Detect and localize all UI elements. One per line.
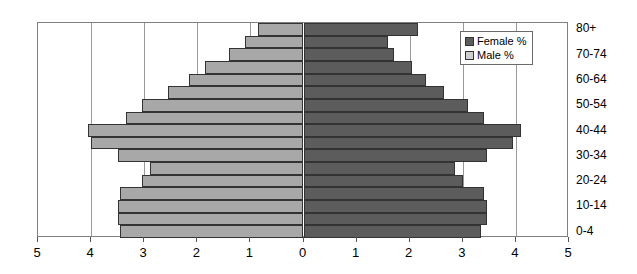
bar-male bbox=[258, 23, 303, 36]
bar-male bbox=[120, 225, 303, 238]
female-swatch-icon bbox=[465, 37, 474, 46]
x-axis-tick-mark bbox=[303, 237, 304, 242]
x-axis-tick-label: 4 bbox=[503, 246, 527, 260]
bar-female bbox=[304, 175, 463, 188]
bar-female bbox=[304, 74, 426, 87]
bar-row bbox=[38, 124, 567, 137]
bar-row bbox=[38, 175, 567, 188]
bar-male bbox=[118, 213, 304, 226]
y-axis-tick-label: 0-4 bbox=[576, 225, 593, 237]
x-axis-tick-mark bbox=[90, 237, 91, 242]
x-axis-tick-label: 2 bbox=[184, 246, 208, 260]
x-axis-tick-mark bbox=[515, 237, 516, 242]
bar-female bbox=[304, 149, 487, 162]
y-axis-tick-label: 70-74 bbox=[576, 48, 607, 60]
y-axis-tick-label: 20-24 bbox=[576, 174, 607, 186]
bar-row bbox=[38, 137, 567, 150]
y-axis-tick-label: 80+ bbox=[576, 22, 596, 34]
x-axis-tick-mark bbox=[462, 237, 463, 242]
bar-female bbox=[304, 99, 469, 112]
bar-male bbox=[118, 149, 304, 162]
y-axis-tick-label: 60-64 bbox=[576, 73, 607, 85]
x-axis-tick-label: 3 bbox=[450, 246, 474, 260]
bar-row bbox=[38, 99, 567, 112]
x-axis-tick-label: 5 bbox=[25, 246, 49, 260]
legend-label-female: Female % bbox=[477, 35, 527, 47]
x-axis-tick-label: 0 bbox=[291, 246, 315, 260]
x-axis-tick-mark bbox=[568, 237, 569, 242]
bar-male bbox=[168, 86, 303, 99]
bar-male bbox=[189, 74, 303, 87]
legend-item-female: Female % bbox=[465, 34, 527, 48]
x-axis-tick-mark bbox=[409, 237, 410, 242]
bar-row bbox=[38, 112, 567, 125]
x-axis-tick-mark bbox=[143, 237, 144, 242]
x-axis-tick-label: 2 bbox=[397, 246, 421, 260]
bar-male bbox=[126, 112, 304, 125]
y-axis-tick-label: 40-44 bbox=[576, 124, 607, 136]
bar-female bbox=[304, 86, 445, 99]
bar-row bbox=[38, 74, 567, 87]
bar-female bbox=[304, 36, 389, 49]
x-axis-tick-mark bbox=[356, 237, 357, 242]
bar-row bbox=[38, 162, 567, 175]
x-axis-tick-label: 4 bbox=[78, 246, 102, 260]
bar-male bbox=[118, 200, 304, 213]
x-axis-tick-mark bbox=[196, 237, 197, 242]
x-axis-tick-label: 1 bbox=[344, 246, 368, 260]
bar-row bbox=[38, 86, 567, 99]
y-axis-tick-label: 50-54 bbox=[576, 98, 607, 110]
bar-row bbox=[38, 187, 567, 200]
bar-row bbox=[38, 213, 567, 226]
bar-female bbox=[304, 187, 485, 200]
chart-legend: Female % Male % bbox=[460, 31, 533, 65]
bar-male bbox=[91, 137, 303, 150]
bar-female bbox=[304, 225, 482, 238]
bar-female bbox=[304, 124, 522, 137]
legend-label-male: Male % bbox=[477, 49, 514, 61]
y-axis-tick-label: 10-14 bbox=[576, 199, 607, 211]
bar-female bbox=[304, 61, 413, 74]
x-axis-tick-label: 3 bbox=[131, 246, 155, 260]
population-pyramid-chart: Female % Male % 0-410-1420-2430-3440-445… bbox=[0, 0, 637, 274]
bar-male bbox=[229, 48, 303, 61]
y-axis-tick-label: 30-34 bbox=[576, 149, 607, 161]
bar-female bbox=[304, 23, 418, 36]
bar-female bbox=[304, 213, 487, 226]
male-swatch-icon bbox=[465, 51, 474, 60]
bar-male bbox=[142, 99, 304, 112]
x-axis-tick-mark bbox=[37, 237, 38, 242]
x-axis-tick-mark bbox=[249, 237, 250, 242]
bar-male bbox=[88, 124, 303, 137]
bar-male bbox=[150, 162, 304, 175]
bar-male bbox=[142, 175, 304, 188]
x-axis-tick-label: 1 bbox=[237, 246, 261, 260]
bar-female bbox=[304, 48, 394, 61]
bar-female bbox=[304, 137, 514, 150]
bar-female bbox=[304, 112, 485, 125]
bar-female bbox=[304, 162, 455, 175]
bar-male bbox=[120, 187, 303, 200]
legend-item-male: Male % bbox=[465, 48, 527, 62]
bar-female bbox=[304, 200, 487, 213]
bar-male bbox=[245, 36, 303, 49]
bar-row bbox=[38, 200, 567, 213]
bar-male bbox=[205, 61, 303, 74]
bar-row bbox=[38, 149, 567, 162]
x-axis-tick-label: 5 bbox=[556, 246, 580, 260]
